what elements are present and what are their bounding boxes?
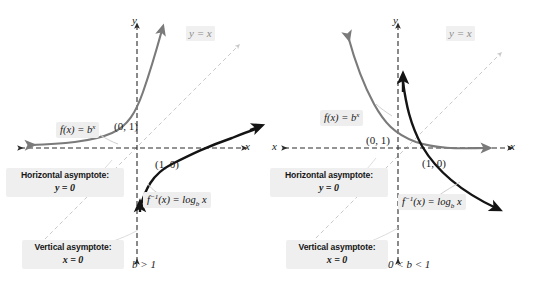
x-axis-label-right: x [510,140,515,153]
logarithm-function-label: f−1(x) = logb x [398,194,466,210]
horizontal-asymptote-title: Horizontal asymptote: [21,170,109,180]
vertical-asymptote-title: Vertical asymptote: [299,242,376,252]
panel-b-greater-than-one: x y y = x f(x) = bx f−1(x) = logb x (0, … [0,0,269,286]
curve-logarithm [403,82,496,208]
panel-b-between-zero-and-one: x x y y = x f(x) = bx f−1(x) = logb x (0… [270,0,539,286]
figure-exponential-log-graphs: x y y = x f(x) = bx f−1(x) = logb x (0, … [0,0,539,286]
horizontal-asymptote-equation: y = 0 [275,182,383,194]
vertical-asymptote-equation: x = 0 [291,254,383,266]
leader-exponential-label [100,135,118,144]
condition-label: 0 < b < 1 [388,258,430,271]
x-axis-label: x [245,140,250,153]
vertical-asymptote-equation: x = 0 [27,254,119,266]
horizontal-asymptote-callout: Horizontal asymptote: y = 0 [6,168,124,197]
condition-label: b > 1 [132,258,156,271]
logarithm-function-text: f−1(x) = logb x [402,196,462,207]
point-label-1-0: (1, 0) [155,158,179,171]
horizontal-asymptote-callout: Horizontal asymptote: y = 0 [270,168,388,197]
exponential-function-label: f(x) = bx [320,110,363,126]
identity-line-label: y = x [446,26,475,41]
exponential-function-text: f(x) = bx [60,124,95,135]
point-label-1-0: (1, 0) [422,157,446,170]
logarithm-function-label: f−1(x) = logb x [143,192,211,208]
x-axis-label-left: x [272,140,277,153]
logarithm-function-text: f−1(x) = logb x [147,194,207,205]
y-axis-label: y [393,14,398,27]
point-label-0-1: (0, 1) [114,120,138,133]
vertical-asymptote-callout: Vertical asymptote: x = 0 [286,240,388,269]
vertical-asymptote-callout: Vertical asymptote: x = 0 [22,240,124,269]
vertical-asymptote-title: Vertical asymptote: [35,242,112,252]
exponential-function-label: f(x) = bx [56,122,99,138]
curve-exponential [348,36,486,148]
y-axis-label: y [132,14,137,27]
exponential-function-text: f(x) = bx [324,112,359,123]
horizontal-asymptote-equation: y = 0 [11,182,119,194]
horizontal-asymptote-title: Horizontal asymptote: [285,170,373,180]
point-label-0-1: (0, 1) [366,134,390,147]
identity-line-label: y = x [186,26,215,41]
